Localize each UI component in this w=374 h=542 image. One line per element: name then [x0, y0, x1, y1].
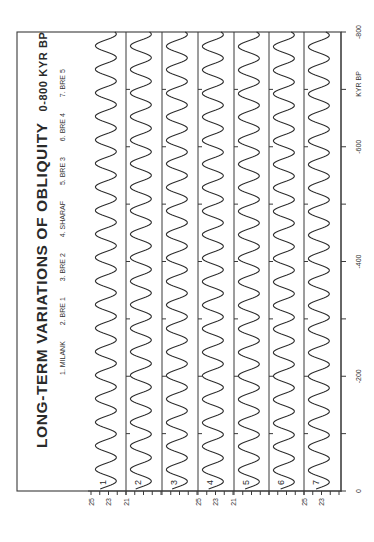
obliquity-tick-label: 25 — [88, 498, 95, 506]
obliquity-curve-5 — [238, 32, 259, 489]
time-tick-label: -800 — [355, 25, 362, 39]
obliquity-curve-6 — [273, 32, 294, 489]
obliquity-tick-label: 21 — [230, 498, 237, 506]
obliquity-tick-label: 21 — [123, 498, 130, 506]
curve-number-6: 6 — [276, 480, 286, 485]
chart-title-suffix: 0-800 KYR BP — [37, 32, 49, 112]
legend-item-7: 7. BRE 5 — [59, 69, 66, 97]
inner-time-ticks — [126, 89, 308, 433]
curve-numbers: 1234567 — [98, 480, 321, 485]
obliquity-curve-4 — [202, 32, 223, 489]
chart-title: LONG-TERM VARIATIONS OF OBLIQUITY 0-800 … — [33, 32, 50, 448]
obliquity-curves — [95, 32, 329, 489]
obliquity-axis: 2523212523212523 — [88, 491, 342, 506]
obliquity-chart: 1234567 -800-600-400-2000 25232125232125… — [0, 0, 374, 542]
curve-number-1: 1 — [98, 480, 108, 485]
obliquity-tick-label: 25 — [195, 498, 202, 506]
legend-item-4: 4. SHARAF — [59, 201, 66, 237]
time-tick-label: -600 — [355, 140, 362, 154]
legend-item-6: 6. BRE 4 — [59, 113, 66, 141]
legend-item-3: 3. BRE 2 — [59, 253, 66, 281]
chart-title-main: LONG-TERM VARIATIONS OF OBLIQUITY — [33, 122, 50, 448]
obliquity-curve-2 — [130, 32, 151, 489]
legend-item-1: 1. MILANK — [59, 341, 66, 375]
curve-number-7: 7 — [311, 480, 321, 485]
obliquity-tick-label: 23 — [318, 498, 325, 506]
legend-item-5: 5. BRE 3 — [59, 157, 66, 185]
obliquity-tick-label: 25 — [301, 498, 308, 506]
time-axis-label-group: KYR BP — [355, 71, 362, 97]
curve-number-2: 2 — [133, 480, 143, 485]
time-tick-label: -400 — [355, 254, 362, 268]
title-group: LONG-TERM VARIATIONS OF OBLIQUITY 0-800 … — [33, 32, 50, 448]
obliquity-curve-7 — [308, 32, 329, 489]
curve-number-4: 4 — [205, 480, 215, 485]
legend-text: 1. MILANK 2. BRE 1 3. BRE 2 4. SHARAF 5.… — [59, 69, 66, 375]
curve-number-5: 5 — [241, 480, 251, 485]
obliquity-tick-label: 23 — [105, 498, 112, 506]
obliquity-curve-3 — [166, 32, 187, 489]
legend-item-2: 2. BRE 1 — [59, 297, 66, 325]
obliquity-curve-1 — [95, 32, 116, 489]
curve-number-3: 3 — [169, 480, 179, 485]
obliquity-tick-label: 23 — [212, 498, 219, 506]
time-tick-label: -200 — [355, 369, 362, 383]
legend: 1. MILANK 2. BRE 1 3. BRE 2 4. SHARAF 5.… — [59, 69, 66, 375]
time-tick-label: 0 — [355, 489, 362, 493]
time-axis-label: KYR BP — [355, 71, 362, 97]
